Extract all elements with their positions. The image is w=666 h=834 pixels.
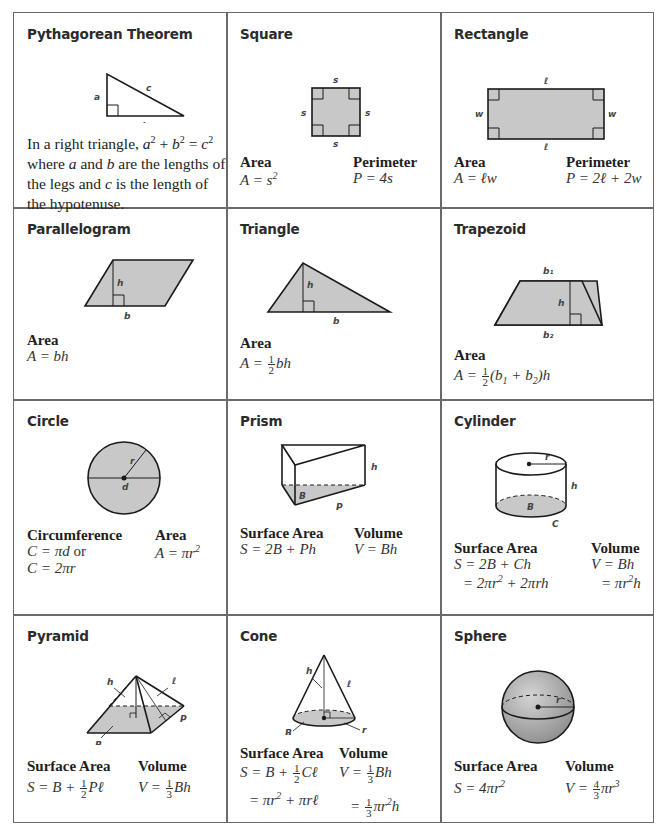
rectangle-diagram: ℓ w w ℓ	[461, 73, 641, 153]
cell-title: Cone	[240, 628, 277, 644]
surface-area-label: Surface Area	[240, 525, 323, 542]
cell-trapezoid: Trapezoid b₁ h b₂ Area A = 12(b1 + b2)h	[441, 208, 654, 399]
surface-area-formula-expanded: = πr2 + πrℓ	[249, 790, 318, 809]
area-label: Area	[240, 335, 271, 352]
circumference-label: Circumference	[27, 527, 122, 544]
circumference-formula: C = πd or	[27, 543, 86, 560]
svg-text:r: r	[545, 452, 550, 462]
area-formula: A = 12bh	[240, 354, 291, 375]
svg-text:ℓ: ℓ	[543, 76, 548, 86]
volume-formula: V = Bh	[354, 541, 397, 558]
svg-text:ℓ: ℓ	[171, 676, 176, 686]
area-label: Area	[454, 347, 485, 364]
cell-cylinder: Cylinder r h B C Surface Area S = 2B + C…	[441, 400, 654, 614]
area-label: Area	[454, 154, 485, 171]
svg-text:r: r	[130, 456, 135, 466]
surface-area-formula: S = 2B + Ph	[240, 541, 316, 558]
pyramid-diagram: h ℓ P B	[69, 660, 199, 745]
cell-title: Cylinder	[454, 413, 515, 429]
svg-text:b₂: b₂	[543, 330, 553, 340]
volume-formula: V = 13Bh	[339, 763, 392, 784]
volume-label: Volume	[591, 540, 640, 557]
perimeter-formula: P = 2ℓ + 2w	[566, 170, 641, 187]
svg-text:d: d	[122, 482, 129, 492]
svg-text:r: r	[556, 695, 561, 705]
svg-text:h: h	[107, 677, 113, 687]
surface-area-label: Surface Area	[454, 758, 537, 775]
svg-text:b: b	[124, 311, 131, 321]
area-formula: A = ℓw	[454, 170, 497, 187]
area-label: Area	[155, 527, 186, 544]
cell-sphere: Sphere r Surface Area S = 4πr2 Volume V …	[441, 615, 654, 822]
surface-area-label: Surface Area	[240, 745, 323, 762]
svg-text:h: h	[306, 666, 312, 676]
volume-formula-expanded: = πr2h	[601, 573, 641, 592]
svg-text:B: B	[95, 740, 102, 745]
volume-label: Volume	[565, 758, 614, 775]
svg-text:ℓ: ℓ	[346, 679, 351, 689]
svg-text:C: C	[552, 519, 559, 529]
svg-text:c: c	[146, 83, 152, 93]
perimeter-label: Perimeter	[353, 154, 417, 171]
svg-text:w: w	[475, 109, 484, 119]
parallelogram-diagram: h b	[69, 253, 199, 328]
cell-title: Square	[240, 26, 293, 42]
cell-square: Square s s s s Area A = s2 Perimeter P =…	[227, 13, 440, 207]
svg-text:h: h	[371, 462, 377, 472]
right-triangle-diagram: a c b	[89, 58, 199, 123]
svg-text:ℓ: ℓ	[543, 142, 548, 152]
prism-diagram: h B P	[277, 440, 397, 525]
cone-diagram: h ℓ B r	[272, 650, 382, 735]
svg-text:a: a	[94, 92, 100, 102]
volume-formula: V = 43πr3	[565, 778, 619, 800]
svg-text:h: h	[117, 278, 123, 288]
area-label: Area	[27, 332, 58, 349]
cell-pyramid: Pyramid h ℓ P B Surface Area S = B + 12P…	[14, 615, 226, 822]
svg-text:s: s	[301, 108, 307, 118]
svg-text:s: s	[365, 108, 371, 118]
cell-pythagorean-theorem: Pythagorean Theorem a c b In a right tri…	[14, 13, 226, 207]
svg-text:w: w	[608, 109, 617, 119]
square-diagram: s s s s	[287, 71, 377, 151]
cell-title: Rectangle	[454, 26, 528, 42]
svg-text:h: h	[571, 481, 577, 491]
area-formula: A = πr2	[155, 543, 200, 562]
svg-text:s: s	[333, 75, 339, 85]
cell-prism: Prism h B P Surface Area S = 2B + Ph Vol…	[227, 400, 440, 614]
pythagorean-description: In a right triangle, a2 + b2 = c2 where …	[27, 130, 227, 214]
area-formula: A = 12(b1 + b2)h	[454, 366, 550, 387]
svg-text:b: b	[142, 121, 149, 123]
svg-text:B: B	[299, 491, 306, 501]
volume-label: Volume	[354, 525, 403, 542]
svg-text:r: r	[362, 725, 367, 735]
cell-title: Prism	[240, 413, 282, 429]
svg-text:P: P	[336, 502, 343, 512]
svg-text:h: h	[558, 298, 564, 308]
surface-area-formula: S = B + 12Pℓ	[27, 778, 104, 799]
cell-title: Parallelogram	[27, 221, 131, 237]
volume-formula: V = Bh	[591, 556, 634, 573]
volume-label: Volume	[339, 745, 388, 762]
volume-formula: V = 13Bh	[138, 778, 191, 799]
volume-formula-expanded: = 13πr2h	[350, 796, 399, 818]
svg-text:s: s	[333, 139, 339, 149]
area-label: Area	[240, 154, 271, 171]
surface-area-label: Surface Area	[454, 540, 537, 557]
cell-title: Pythagorean Theorem	[27, 26, 193, 42]
cell-title: Pyramid	[27, 628, 89, 644]
cell-triangle: Triangle h b Area A = 12bh	[227, 208, 440, 399]
cell-cone: Cone h ℓ B r Surface Area S = B + 12Cℓ =…	[227, 615, 440, 822]
cell-title: Triangle	[240, 221, 300, 237]
cell-circle: Circle r d Circumference C = πd or C = 2…	[14, 400, 226, 614]
svg-text:B: B	[527, 502, 534, 512]
perimeter-label: Perimeter	[566, 154, 630, 171]
svg-text:b: b	[333, 316, 340, 326]
svg-text:P: P	[180, 714, 187, 724]
cylinder-diagram: r h B C	[491, 445, 611, 540]
formula-reference-table: Pythagorean Theorem a c b In a right tri…	[13, 12, 654, 823]
triangle-diagram: h b	[262, 253, 412, 328]
sphere-diagram: r	[496, 665, 586, 755]
surface-area-formula: S = 4πr2	[454, 778, 505, 797]
svg-text:b₁: b₁	[543, 266, 553, 276]
cell-rectangle: Rectangle ℓ w w ℓ Area A = ℓw Perimeter …	[441, 13, 654, 207]
